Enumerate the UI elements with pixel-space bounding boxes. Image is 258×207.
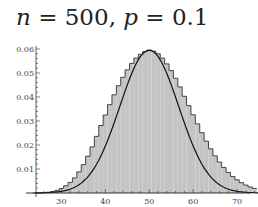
histogram-bar [160,58,164,193]
x-tick-label: 50 [144,197,154,206]
histogram-bar [147,50,151,193]
histogram-bar [143,52,147,193]
histogram-bar [191,115,195,193]
histogram-bar [204,141,208,193]
histogram-bar [77,172,81,193]
histogram-bar [173,78,177,193]
histogram-bar [156,54,160,193]
histogram-bar [112,95,116,193]
histogram-bar [182,96,186,193]
y-tick-label: 0.06 [16,45,34,54]
histogram-bar [81,165,85,193]
y-tick-label: 0.05 [16,69,34,78]
histogram-bar [72,178,76,193]
histogram-bar [116,86,120,193]
histogram-bar [138,54,142,193]
histogram-chart: 0.010.020.030.040.050.063040506070 [0,0,258,207]
histogram-bar [213,156,217,193]
histogram-bar [151,51,155,193]
x-tick-label: 60 [188,197,198,206]
histogram-bar [200,133,204,193]
histogram-bar [187,106,191,193]
histogram-bar [134,58,138,193]
x-tick-label: 30 [56,197,66,206]
histogram-bar [178,87,182,193]
x-tick-label: 70 [232,197,242,206]
histogram-bar [165,64,169,193]
histogram-bar [130,63,134,193]
y-tick-label: 0.01 [16,165,34,174]
x-tick-label: 40 [100,197,110,206]
y-tick-label: 0.02 [16,141,34,150]
histogram-bar [108,105,112,193]
histogram-bar [217,162,221,193]
y-tick-label: 0.04 [16,93,34,102]
histogram-bar [209,149,213,193]
histogram-bar [222,168,226,193]
histogram-bar [103,115,107,193]
y-tick-label: 0.03 [16,117,34,126]
